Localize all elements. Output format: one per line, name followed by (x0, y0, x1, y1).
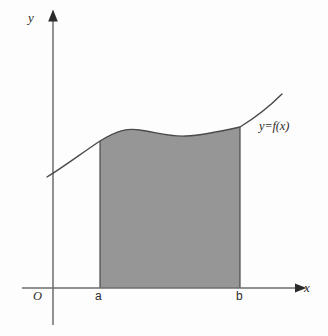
y-axis-label: y (28, 11, 34, 24)
origin-label: O (33, 290, 42, 303)
curve-equation-label: y=f(x) (259, 120, 289, 133)
figure-canvas: y x O a b y=f(x) (0, 0, 328, 336)
x-axis-label: x (304, 281, 310, 294)
area-under-curve-figure (0, 0, 328, 336)
tick-label-b: b (236, 290, 243, 302)
shaded-area-under-curve (100, 127, 240, 288)
tick-label-a: a (95, 290, 102, 302)
